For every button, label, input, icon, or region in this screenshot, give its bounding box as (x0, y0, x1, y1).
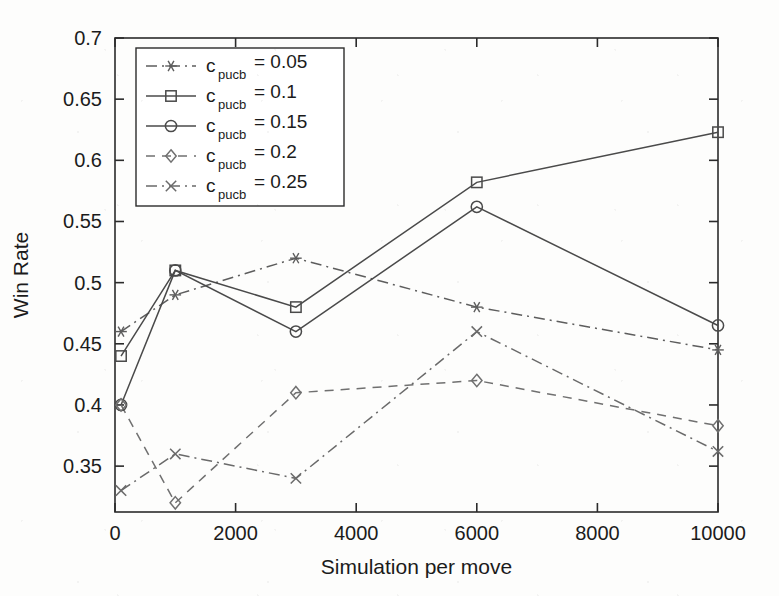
legend-label-value-2: = 0.15 (254, 111, 307, 132)
legend-label-subscript-2: pucb (218, 127, 246, 142)
y-tick-label: 0.6 (74, 149, 102, 171)
x-tick-label: 0 (109, 522, 120, 544)
data-point-s4-p0 (116, 485, 126, 495)
y-tick-label: 0.5 (74, 272, 102, 294)
y-tick-label: 0.65 (63, 88, 102, 110)
series-line-4 (121, 332, 718, 491)
x-tick-label: 4000 (334, 522, 379, 544)
legend-label-value-0: = 0.05 (254, 51, 307, 72)
legend-label-prefix-3: c (206, 145, 216, 166)
x-tick-label: 8000 (575, 522, 620, 544)
figure-canvas: 02000400060008000100000.350.40.450.50.55… (0, 0, 779, 596)
y-tick-label: 0.35 (63, 455, 102, 477)
data-point-s4-p3 (472, 326, 482, 336)
x-tick-label: 2000 (213, 522, 258, 544)
legend-label-value-4: = 0.25 (254, 171, 307, 192)
marker-diamond (170, 497, 180, 509)
x-tick-label: 6000 (455, 522, 500, 544)
legend-label-subscript-4: pucb (218, 187, 246, 202)
series-line-2 (121, 207, 718, 405)
y-axis-title: Win Rate (9, 232, 32, 318)
legend-label-prefix-4: c (206, 175, 216, 196)
legend-label-subscript-3: pucb (218, 157, 246, 172)
y-tick-label: 0.45 (63, 333, 102, 355)
win-rate-line-chart: 02000400060008000100000.350.40.450.50.55… (0, 0, 779, 596)
y-tick-label: 0.55 (63, 210, 102, 232)
series-line-0 (121, 258, 718, 350)
y-tick-label: 0.7 (74, 27, 102, 49)
legend-label-value-3: = 0.2 (254, 141, 297, 162)
legend-label-prefix-0: c (206, 55, 216, 76)
data-point-s0-p1 (170, 290, 182, 300)
legend-label-subscript-0: pucb (218, 67, 246, 82)
x-tick-label: 10000 (690, 522, 746, 544)
data-point-s0-p3 (471, 302, 483, 312)
legend-label-prefix-2: c (206, 115, 216, 136)
legend-label-value-1: = 0.1 (254, 81, 297, 102)
data-point-s3-p1 (170, 497, 180, 509)
y-tick-label: 0.4 (74, 394, 102, 416)
data-point-s0-p2 (290, 253, 302, 263)
x-axis-title: Simulation per move (321, 555, 512, 578)
legend-label-subscript-1: pucb (218, 97, 246, 112)
legend-label-prefix-1: c (206, 85, 216, 106)
series-line-3 (121, 381, 718, 503)
